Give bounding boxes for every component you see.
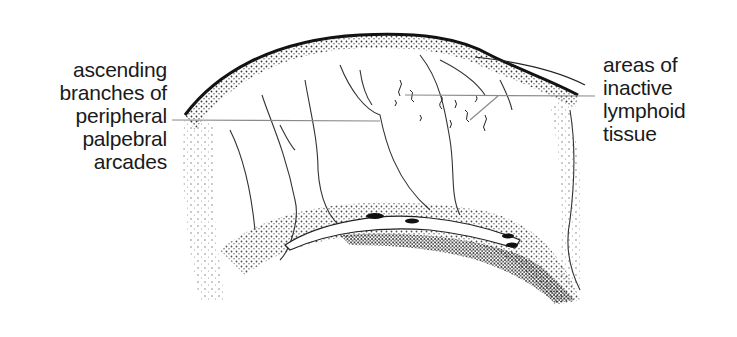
leader-lines: [172, 95, 595, 121]
lymphoid-squiggles: [395, 80, 487, 131]
label-line: tissue: [603, 122, 685, 145]
label-line: inactive: [603, 76, 685, 99]
lid-margin-stipple: [185, 34, 578, 130]
label-line: peripheral: [59, 104, 167, 127]
label-line: areas of: [603, 53, 685, 76]
leader-line-arcades: [172, 120, 380, 121]
label-line: lymphoid: [603, 99, 685, 122]
label-line: ascending: [59, 58, 167, 81]
leader-line-lymphoid-2: [470, 96, 498, 120]
label-line: palpebral: [59, 127, 167, 150]
label-line: arcades: [59, 150, 167, 173]
label-inactive-lymphoid-tissue: areas of inactive lymphoid tissue: [603, 53, 685, 145]
label-ascending-branches: ascending branches of peripheral palpebr…: [59, 58, 167, 173]
left-stipple: [183, 115, 225, 300]
label-line: branches of: [59, 81, 167, 104]
